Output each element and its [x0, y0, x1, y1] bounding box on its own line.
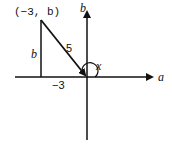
horizontal-length-label: −3 — [52, 79, 65, 91]
diagram-canvas: (−3, b) b a b 5 −3 x — [0, 0, 172, 148]
angle-label: x — [95, 59, 102, 73]
triangle-hypotenuse — [41, 20, 85, 75]
point-label: (−3, b) — [14, 6, 60, 18]
vertical-leg-label: b — [31, 47, 37, 61]
hypotenuse-label: 5 — [66, 42, 72, 54]
horizontal-axis-label: a — [158, 70, 164, 84]
vertical-axis-label: b — [80, 1, 86, 15]
